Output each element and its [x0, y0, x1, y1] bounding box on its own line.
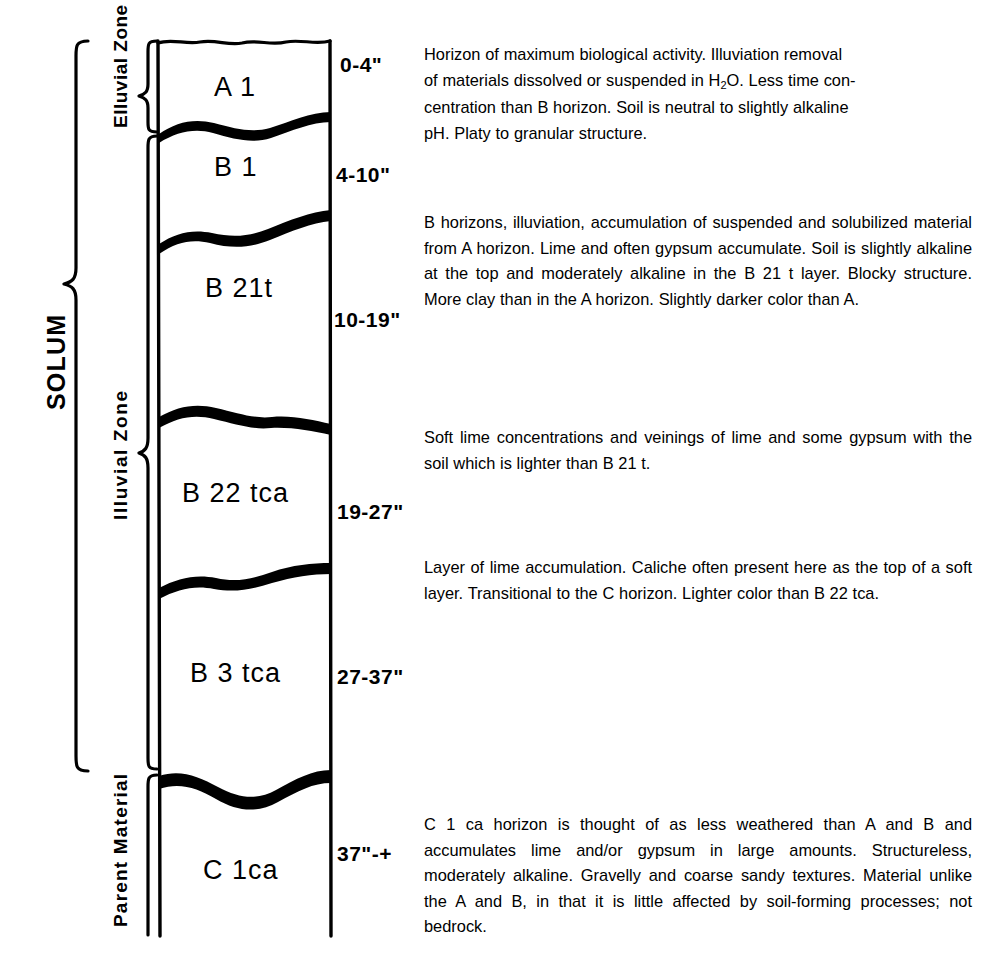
boundary-b21t-b22tca: [159, 406, 331, 435]
description-b3tca: Layer of lime accumulation. Caliche ofte…: [424, 555, 972, 606]
horizon-name-b22tca: B 22 tca: [182, 478, 289, 509]
water-subscript: 2: [720, 79, 726, 91]
description-a1: Horizon of maximum biological activity. …: [424, 42, 972, 146]
horizon-name-a1: A 1: [214, 72, 256, 103]
boundary-b3tca-c1ca: [159, 770, 331, 810]
description-b22tca: Soft lime concentrations and veinings of…: [424, 425, 972, 476]
description-a1-line1: Horizon of maximum biological activity. …: [424, 42, 972, 68]
illuvial-zone-brace: [139, 136, 157, 769]
horizon-name-c1ca: C 1ca: [203, 855, 279, 886]
elluvial-zone-brace: [139, 41, 157, 132]
boundary-b1-b21t: [159, 210, 331, 254]
solum-zone-label: SOLUM: [42, 314, 71, 410]
horizon-name-b1: B 1: [214, 152, 258, 183]
description-a1-line2: of materials dissolved or suspended in H…: [424, 68, 972, 96]
soil-profile-figure: SOLUM Elluvial Zone Illuvial Zone Parent…: [0, 0, 981, 960]
description-a1-line4: pH. Platy to granular structure.: [424, 121, 972, 147]
column-right-wall: [330, 41, 331, 936]
description-a1-line2-post: O. Less time con-: [727, 71, 856, 89]
parent-material-bracket: [148, 775, 157, 935]
boundary-b22tca-b3tca: [159, 563, 331, 599]
description-a1-line3: centration than B horizon. Soil is neutr…: [424, 95, 972, 121]
horizon-name-b3tca: B 3 tca: [190, 658, 281, 689]
depth-label-c1ca: 37"-+: [337, 842, 392, 866]
depth-label-b21t: 10-19": [334, 308, 401, 332]
illuvial-zone-label: Illuvial Zone: [110, 389, 132, 520]
depth-label-b22tca: 19-27": [337, 500, 404, 524]
description-b-horizons: B horizons, illuviation, accumulation of…: [424, 210, 972, 312]
horizon-boundaries: [159, 112, 331, 810]
depth-label-b1: 4-10": [336, 163, 391, 187]
soil-surface-line: [158, 41, 330, 44]
column-left-wall: [158, 41, 160, 936]
boundary-a1-b1: [159, 112, 331, 143]
description-c1ca: C 1 ca horizon is thought of as less wea…: [424, 812, 972, 940]
elluvial-zone-label: Elluvial Zone: [110, 4, 131, 128]
depth-label-a1: 0-4": [340, 53, 382, 77]
depth-label-b3tca: 27-37": [337, 665, 404, 689]
parent-material-label: Parent Material: [110, 773, 132, 927]
horizon-name-b21t: B 21t: [205, 273, 273, 304]
description-a1-line2-pre: of materials dissolved or suspended in H: [424, 71, 720, 89]
